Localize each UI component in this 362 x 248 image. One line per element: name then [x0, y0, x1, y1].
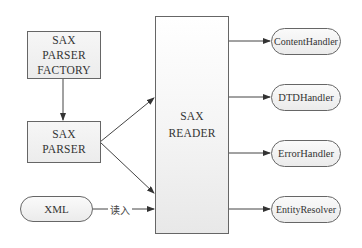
- arrow-parser-to-reader-lower: [100, 142, 154, 193]
- parser-line-1: SAX: [52, 127, 76, 142]
- sax-parser-factory-box: SAX PARSER FACTORY: [27, 31, 101, 79]
- entity-resolver-node: EntityResolver: [271, 196, 341, 223]
- sax-reader-box: SAX READER: [155, 16, 229, 234]
- dtd-handler-node: DTDHandler: [271, 84, 341, 111]
- content-handler-label: ContentHandler: [274, 36, 338, 47]
- xml-label: XML: [44, 203, 68, 215]
- factory-line-1: SAX: [52, 33, 76, 48]
- reader-line-2: READER: [168, 126, 215, 141]
- arrow-parser-to-reader-upper: [100, 98, 154, 142]
- sax-architecture-diagram: SAX PARSER FACTORY SAX PARSER SAX READER…: [0, 0, 362, 248]
- reader-line-1: SAX: [180, 109, 204, 124]
- factory-line-3: FACTORY: [37, 63, 90, 78]
- xml-input-node: XML: [20, 196, 93, 222]
- dtd-handler-label: DTDHandler: [278, 92, 333, 103]
- entity-resolver-label: EntityResolver: [276, 204, 336, 215]
- content-handler-node: ContentHandler: [271, 28, 341, 55]
- factory-line-2: PARSER: [42, 48, 86, 63]
- read-edge-label: 读入: [108, 202, 132, 217]
- parser-line-2: PARSER: [42, 142, 86, 157]
- sax-parser-box: SAX PARSER: [27, 121, 101, 163]
- error-handler-label: ErrorHandler: [278, 148, 334, 159]
- error-handler-node: ErrorHandler: [271, 140, 341, 167]
